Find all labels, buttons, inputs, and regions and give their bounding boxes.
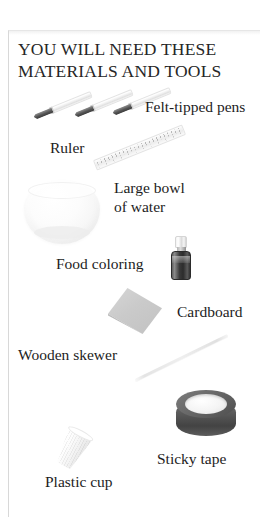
cardboard-illustration: [108, 288, 162, 334]
label-large-bowl-of-water: Large bowl of water: [114, 178, 185, 216]
large-bowl-illustration: [24, 180, 100, 244]
tape-roll-hole: [185, 394, 227, 414]
cardboard-sheet: [108, 288, 162, 334]
label-ruler: Ruler: [50, 138, 84, 157]
label-sticky-tape: Sticky tape: [157, 449, 226, 468]
bowl-rim: [28, 182, 96, 199]
label-food-coloring: Food coloring: [56, 254, 143, 273]
bottle-label: [172, 256, 190, 263]
label-cardboard: Cardboard: [177, 302, 242, 321]
label-wooden-skewer: Wooden skewer: [18, 345, 117, 364]
page-title: YOU WILL NEED THESE MATERIALS AND TOOLS: [18, 38, 250, 82]
label-plastic-cup: Plastic cup: [45, 472, 113, 491]
food-coloring-bottle-illustration: [170, 236, 192, 280]
label-felt-tipped-pens: Felt-tipped pens: [145, 97, 245, 116]
sticky-tape-illustration: [176, 390, 236, 442]
bowl-water: [34, 226, 90, 239]
materials-and-tools-page: YOU WILL NEED THESE MATERIALS AND TOOLS …: [0, 0, 260, 517]
